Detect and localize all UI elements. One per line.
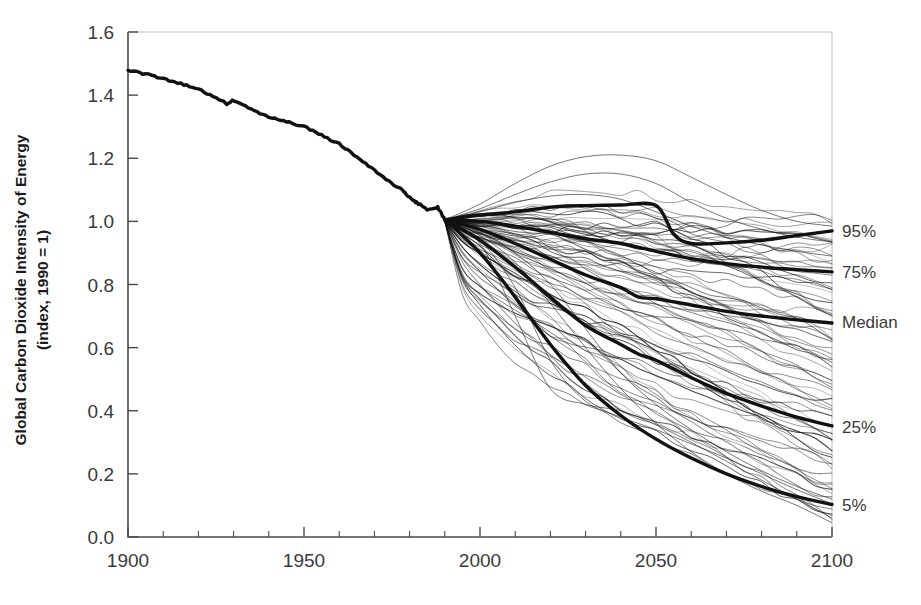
y-tick-label: 0.4: [88, 401, 115, 422]
y-tick-label: 1.2: [88, 148, 114, 169]
percentile-label-25pct: 25%: [842, 418, 876, 437]
x-tick-label: 2050: [635, 550, 677, 571]
y-tick-label: 0.0: [88, 527, 114, 548]
percentile-label-5pct: 5%: [842, 496, 867, 515]
percentile-label-95pct: 95%: [842, 222, 876, 241]
y-axis-title-line2: (index, 1990 = 1): [34, 230, 51, 350]
x-tick-label: 1950: [283, 550, 325, 571]
x-tick-label: 2100: [811, 550, 853, 571]
y-tick-label: 1.6: [88, 22, 114, 43]
y-tick-label: 1.0: [88, 211, 114, 232]
y-tick-label: 0.6: [88, 338, 114, 359]
y-axis-title-line1: Global Carbon Dioxide Intensity of Energ…: [12, 134, 29, 445]
co2-intensity-line-chart: Global Carbon Dioxide Intensity of Energ…: [0, 0, 921, 605]
percentile-label-75pct: 75%: [842, 263, 876, 282]
chart-background: [0, 0, 921, 605]
y-tick-label: 0.2: [88, 464, 114, 485]
y-tick-label: 1.4: [88, 85, 115, 106]
y-tick-label: 0.8: [88, 275, 114, 296]
figure-container: Global Carbon Dioxide Intensity of Energ…: [0, 0, 921, 605]
x-tick-label: 2000: [459, 550, 501, 571]
x-tick-label: 1900: [107, 550, 149, 571]
percentile-label-median: Median: [842, 313, 898, 332]
